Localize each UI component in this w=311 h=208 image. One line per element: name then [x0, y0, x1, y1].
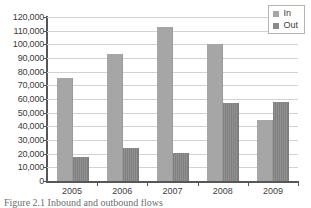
x-axis-tick	[97, 182, 98, 186]
legend-item-in[interactable]: In	[273, 9, 298, 18]
x-axis-tick	[147, 182, 148, 186]
bar-in-2006	[107, 54, 123, 181]
y-axis-tick-label: 120,000	[0, 13, 44, 22]
y-axis-tick	[43, 17, 47, 18]
x-axis-tick	[198, 182, 199, 186]
y-axis-tick	[43, 72, 47, 73]
legend-swatch-out-icon	[273, 23, 279, 29]
gridline	[47, 17, 298, 18]
y-axis-tick-label: 40,000	[0, 122, 44, 131]
bar-out-2007	[173, 153, 189, 181]
legend-label-in: In	[283, 9, 291, 18]
y-axis-tick-label: 110,000	[0, 27, 44, 36]
y-axis-tick	[43, 181, 47, 182]
bar-in-2009	[257, 120, 273, 182]
x-axis-tick	[248, 182, 249, 186]
bar-in-2005	[57, 78, 73, 181]
y-axis-tick-label: 10,000	[0, 163, 44, 172]
y-axis-tick-label: 30,000	[0, 136, 44, 145]
y-axis-tick-label: 50,000	[0, 109, 44, 118]
bar-out-2006	[123, 148, 139, 181]
figure-caption: Figure 2.1 Inbound and outbound flows	[4, 199, 163, 208]
legend-swatch-in-icon	[273, 11, 279, 17]
y-axis-tick-label: 70,000	[0, 81, 44, 90]
y-axis-tick	[43, 167, 47, 168]
x-axis-tick-label: 2007	[153, 186, 193, 196]
x-axis-tick-label: 2009	[253, 186, 293, 196]
chart-legend: In Out	[268, 5, 305, 34]
legend-label-out: Out	[283, 21, 298, 30]
x-axis: 20052006200720082009	[47, 186, 298, 200]
y-axis-tick	[43, 99, 47, 100]
x-axis-tick-label: 2008	[203, 186, 243, 196]
y-axis-tick-label: 80,000	[0, 68, 44, 77]
plot-area	[47, 17, 298, 181]
legend-item-out[interactable]: Out	[273, 21, 298, 30]
y-axis-tick	[43, 44, 47, 45]
y-axis-tick	[43, 154, 47, 155]
y-axis-tick-label: 20,000	[0, 150, 44, 159]
x-axis-tick-label: 2006	[102, 186, 142, 196]
bar-in-2008	[207, 44, 223, 181]
bar-out-2005	[73, 157, 89, 181]
bar-chart-figure: 120,000110,000100,00090,00080,00070,0006…	[0, 0, 311, 208]
y-axis-tick	[43, 113, 47, 114]
y-axis-tick-label: 90,000	[0, 54, 44, 63]
y-axis-tick-label: 60,000	[0, 95, 44, 104]
bar-out-2008	[223, 103, 239, 181]
bar-out-2009	[273, 102, 289, 181]
y-axis-tick	[43, 126, 47, 127]
x-axis-line	[46, 181, 299, 183]
x-axis-tick-label: 2005	[52, 186, 92, 196]
figure-caption-strip: Figure 2.1 Inbound and outbound flows	[0, 199, 311, 208]
y-axis: 120,000110,000100,00090,00080,00070,0006…	[0, 0, 44, 208]
y-axis-tick-label: 0	[0, 177, 44, 186]
y-axis-tick	[43, 85, 47, 86]
y-axis-tick	[43, 31, 47, 32]
y-axis-tick-label: 100,000	[0, 40, 44, 49]
y-axis-tick	[43, 58, 47, 59]
bar-in-2007	[157, 27, 173, 181]
y-axis-tick	[43, 140, 47, 141]
x-axis-tick	[298, 182, 299, 186]
